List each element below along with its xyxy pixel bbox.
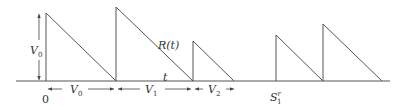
v0-height-label: V0 [30, 45, 42, 59]
interval-v0-label: V0 [70, 84, 82, 98]
curve-label: R(t) [158, 40, 179, 51]
interval-v2-label: V2 [208, 84, 220, 98]
event-label: Sr1 [270, 91, 281, 106]
sawtooth-diagram [0, 0, 399, 110]
tooth-2 [116, 7, 193, 81]
origin-label: 0 [42, 94, 49, 105]
tooth-3 [193, 41, 234, 81]
interval-v1-label: V1 [145, 84, 157, 98]
axis-label: t [163, 72, 167, 83]
tooth-1 [46, 13, 116, 81]
tooth-5 [323, 24, 382, 81]
tooth-4 [276, 35, 323, 81]
